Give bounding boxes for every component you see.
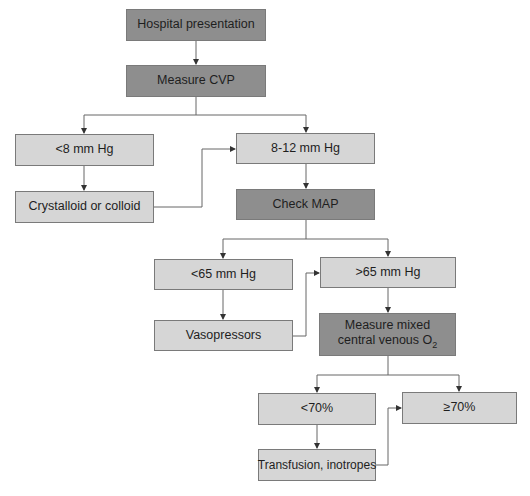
node-transfusion-inotropes: Transfusion, inotropes <box>258 449 376 481</box>
node-label: <8 mm Hg <box>55 142 113 158</box>
node-label: <70% <box>301 401 333 417</box>
node-label: Crystalloid or colloid <box>29 199 141 215</box>
node-label: 8-12 mm Hg <box>271 141 340 157</box>
node-cvp-low: <8 mm Hg <box>15 134 154 166</box>
node-label: ≥70% <box>444 400 476 416</box>
node-check-map: Check MAP <box>236 189 375 220</box>
node-label-line1: Measure mixed <box>345 318 430 334</box>
node-measure-cvp: Measure CVP <box>126 65 266 97</box>
node-vasopressors: Vasopressors <box>154 320 293 351</box>
node-label: >65 mm Hg <box>356 265 421 281</box>
node-measure-svo2: Measure mixed central venous O2 <box>319 313 456 356</box>
node-label: Measure CVP <box>157 73 235 89</box>
node-crystalloid-colloid: Crystalloid or colloid <box>15 191 154 223</box>
node-map-target: >65 mm Hg <box>320 257 456 288</box>
node-hospital-presentation: Hospital presentation <box>126 9 266 41</box>
node-label: Hospital presentation <box>137 17 254 33</box>
node-svo2-target: ≥70% <box>402 392 517 424</box>
node-label: Check MAP <box>273 197 339 213</box>
node-cvp-target: 8-12 mm Hg <box>236 133 375 164</box>
node-label: <65 mm Hg <box>191 267 256 283</box>
node-svo2-low: <70% <box>258 393 376 425</box>
node-label: Transfusion, inotropes <box>258 458 376 473</box>
node-label: Vasopressors <box>186 328 262 344</box>
node-label-line2: central venous O2 <box>338 333 438 351</box>
node-map-low: <65 mm Hg <box>154 259 293 290</box>
